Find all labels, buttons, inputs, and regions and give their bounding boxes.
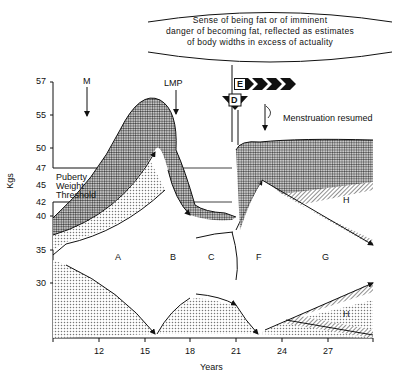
region-h-upper-label: H — [343, 195, 350, 205]
ytick-35: 35 — [20, 245, 46, 255]
region-c-label: C — [208, 252, 215, 262]
ytick-30: 30 — [20, 278, 46, 288]
menarche-label: M — [83, 76, 91, 86]
threshold-label-3: Threshold — [56, 190, 96, 200]
weight-peak — [53, 98, 236, 235]
ytick-42: 42 — [20, 197, 46, 207]
banner-caption: Sense of being fat or of imminent danger… — [160, 15, 360, 48]
lmp-label: LMP — [164, 78, 183, 88]
x-axis-label: Years — [200, 362, 223, 372]
marker-e-label: E — [237, 79, 243, 89]
marker-d-label: D — [231, 95, 238, 105]
xtick-15: 15 — [135, 346, 155, 356]
xtick-18: 18 — [180, 346, 200, 356]
ytick-45: 45 — [20, 180, 46, 190]
xtick-24: 24 — [272, 346, 292, 356]
banner-line-3: of body widths in excess of actuality — [160, 37, 360, 48]
xtick-12: 12 — [89, 346, 109, 356]
ytick-55: 55 — [20, 110, 46, 120]
region-b-label: B — [170, 252, 176, 262]
ytick-40: 40 — [20, 211, 46, 221]
region-f-label: F — [256, 252, 262, 262]
ytick-50: 50 — [20, 143, 46, 153]
weight-plateau — [236, 139, 373, 230]
y-axis-label: Kgs — [5, 173, 15, 189]
xtick-27: 27 — [318, 346, 338, 356]
banner-line-2: danger of becoming fat, reflected as est… — [160, 26, 360, 37]
menstruation-resumed-label: Menstruation resumed — [283, 113, 373, 123]
xtick-21: 21 — [226, 346, 246, 356]
banner-line-1: Sense of being fat or of imminent — [160, 15, 360, 26]
region-a-label: A — [115, 252, 121, 262]
ytick-47: 47 — [20, 163, 46, 173]
region-h-lower-label: H — [343, 309, 350, 319]
ytick-57: 57 — [20, 76, 46, 86]
region-g-label: G — [322, 252, 329, 262]
